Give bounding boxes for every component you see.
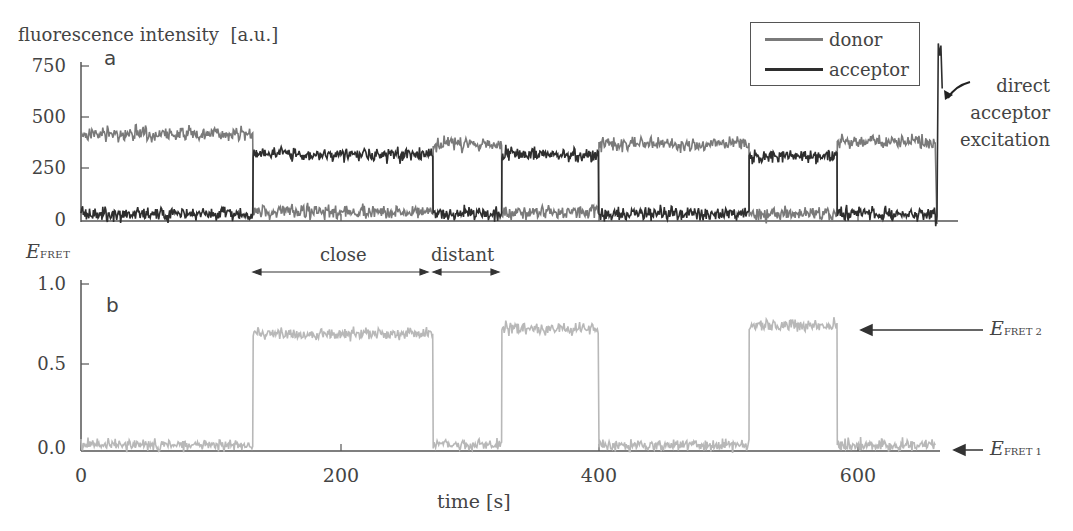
trace-efret — [81, 317, 935, 453]
efret1-label: EFRET 1 — [990, 437, 1042, 459]
panel-b-letter: b — [106, 293, 119, 317]
efret2-label: EFRET 2 — [990, 317, 1042, 339]
legend-item-acceptor: acceptor — [765, 58, 909, 80]
close-label: close — [320, 244, 367, 265]
ytick-b-0.5: 0.5 — [26, 353, 66, 374]
direct-excitation-annotation: direct acceptor excitation — [960, 72, 1050, 153]
ytick-a-0: 0 — [26, 209, 66, 230]
legend-label-acceptor: acceptor — [829, 59, 909, 80]
panel-a-axes — [81, 62, 958, 222]
xaxis-unit: [s] — [486, 490, 511, 512]
efret-subscript: FRET — [40, 249, 70, 260]
efret1-arrow — [954, 445, 983, 455]
legend-label-donor: donor — [829, 29, 882, 50]
annotation-line-1: direct — [960, 72, 1050, 99]
xtick-400: 400 — [574, 464, 624, 486]
panel-b-ylabel: EFRET — [26, 240, 70, 262]
ytick-a-500: 500 — [26, 106, 66, 127]
ytick-b-0.0: 0.0 — [26, 437, 66, 458]
ylabel-unit: [a.u.] — [230, 24, 278, 45]
xaxis-label-text: time — [437, 490, 480, 512]
ytick-b-1.0: 1.0 — [26, 273, 66, 294]
trace-donor — [81, 125, 937, 224]
efret1-subscript: FRET 1 — [1004, 446, 1042, 457]
legend-swatch-acceptor — [765, 68, 823, 71]
xtick-600: 600 — [833, 464, 883, 486]
efret-symbol: E — [26, 240, 40, 262]
distant-label: distant — [431, 244, 494, 265]
xtick-200: 200 — [316, 464, 366, 486]
close-range-arrow — [253, 269, 428, 275]
efret1-symbol: E — [990, 437, 1004, 459]
panel-a-ylabel: fluorescence intensity [a.u.] — [18, 24, 278, 45]
xaxis-label: time [s] — [437, 490, 511, 512]
legend-item-donor: donor — [765, 28, 882, 50]
annotation-line-2: acceptor — [960, 99, 1050, 126]
efret2-subscript: FRET 2 — [1004, 326, 1042, 337]
panel-b-traces — [81, 317, 935, 453]
legend: donor acceptor — [750, 22, 920, 86]
annotation-line-3: excitation — [960, 126, 1050, 153]
distant-range-arrow — [433, 269, 499, 275]
panel-a-letter: a — [104, 46, 116, 70]
ytick-a-750: 750 — [26, 55, 66, 76]
legend-swatch-donor — [765, 38, 823, 41]
ytick-a-250: 250 — [26, 157, 66, 178]
efret2-arrow — [861, 325, 983, 335]
xtick-0: 0 — [61, 464, 101, 486]
efret2-symbol: E — [990, 317, 1004, 339]
panel-b-axes — [81, 280, 940, 451]
ylabel-text: fluorescence intensity — [18, 24, 219, 45]
